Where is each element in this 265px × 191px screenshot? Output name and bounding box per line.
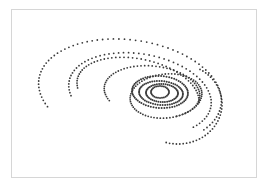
data-point: [145, 59, 147, 61]
data-point: [193, 73, 195, 75]
data-point: [151, 42, 153, 44]
data-point: [144, 65, 146, 67]
data-point: [189, 70, 191, 72]
data-point: [153, 100, 155, 102]
data-point: [217, 120, 219, 122]
data-point: [193, 79, 195, 81]
data-point: [154, 80, 156, 82]
data-point: [135, 85, 137, 87]
data-point: [84, 61, 86, 63]
data-point: [210, 99, 212, 101]
data-point: [173, 70, 175, 72]
data-point: [119, 56, 121, 58]
data-point: [141, 80, 143, 82]
data-point: [166, 81, 168, 83]
data-point: [76, 80, 78, 82]
data-point: [173, 102, 175, 104]
data-point: [176, 105, 178, 107]
data-point: [157, 63, 159, 65]
data-point: [174, 73, 176, 75]
data-point: [156, 80, 158, 82]
data-point: [164, 104, 166, 106]
data-point: [132, 89, 134, 91]
data-point: [176, 143, 178, 145]
data-point: [172, 49, 174, 51]
data-point: [158, 107, 160, 109]
data-point: [180, 81, 182, 83]
data-point: [218, 117, 220, 119]
data-point: [167, 104, 169, 106]
data-point: [133, 66, 135, 68]
data-point: [138, 111, 140, 113]
data-point: [178, 115, 180, 117]
data-point: [174, 84, 176, 86]
data-point: [108, 100, 110, 102]
data-point: [205, 72, 207, 74]
data-point: [167, 47, 169, 49]
data-point: [130, 103, 132, 105]
data-point: [68, 80, 70, 82]
data-point: [153, 117, 155, 119]
data-point: [42, 99, 44, 101]
data-point: [157, 104, 159, 106]
data-point: [155, 65, 157, 67]
data-point: [183, 100, 185, 102]
data-point: [195, 85, 197, 87]
data-point: [145, 83, 147, 85]
data-point: [130, 66, 132, 68]
data-point: [221, 108, 223, 110]
data-point: [219, 114, 221, 116]
data-point: [184, 113, 186, 115]
data-point: [135, 82, 137, 84]
data-point: [170, 68, 172, 70]
data-point: [80, 71, 82, 73]
data-point: [96, 39, 98, 41]
data-point: [169, 104, 171, 106]
data-point: [162, 104, 164, 106]
data-point: [163, 96, 165, 98]
data-point: [201, 120, 203, 122]
data-point: [154, 84, 156, 86]
data-point: [180, 74, 182, 76]
data-point: [190, 58, 192, 60]
data-point: [166, 101, 168, 103]
data-point: [77, 87, 79, 89]
data-point: [199, 78, 201, 80]
data-point: [157, 44, 159, 46]
data-point: [86, 41, 88, 43]
data-point: [212, 122, 214, 124]
data-point: [140, 58, 142, 60]
data-point: [198, 63, 200, 65]
data-point: [163, 67, 165, 69]
data-point: [165, 66, 167, 68]
data-point: [199, 138, 201, 140]
data-point: [139, 101, 141, 103]
data-point: [155, 96, 157, 98]
data-point: [160, 83, 162, 85]
data-point: [187, 111, 189, 113]
data-point: [76, 67, 78, 69]
data-point: [195, 81, 197, 83]
data-point: [160, 101, 162, 103]
data-point: [77, 78, 79, 80]
data-point: [210, 105, 212, 107]
data-point: [199, 86, 201, 88]
data-point: [156, 83, 158, 85]
data-point: [210, 76, 212, 78]
data-point: [159, 85, 161, 87]
data-point: [161, 73, 163, 75]
data-point: [171, 73, 173, 75]
data-point: [210, 108, 212, 110]
data-point: [177, 51, 179, 53]
data-point: [210, 102, 212, 104]
data-point: [159, 97, 161, 99]
data-point: [195, 90, 197, 92]
data-point: [85, 66, 87, 68]
data-point: [38, 87, 40, 89]
data-point: [170, 82, 172, 84]
data-point: [150, 116, 152, 118]
data-point: [204, 84, 206, 86]
data-point: [163, 107, 165, 109]
data-point: [163, 80, 165, 82]
data-point: [166, 117, 168, 119]
